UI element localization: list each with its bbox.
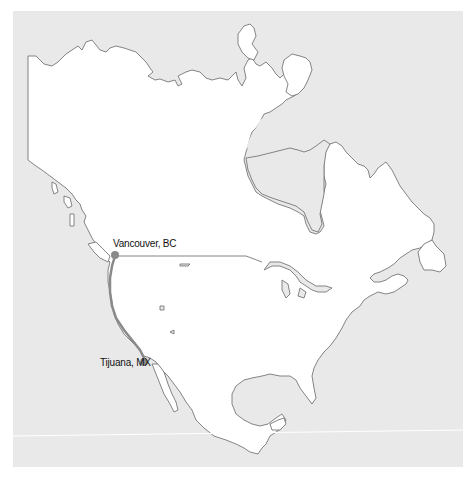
baffin-island xyxy=(282,54,312,96)
yucatan xyxy=(270,418,286,430)
marker-vancouver[interactable] xyxy=(111,251,119,259)
continent-landmass xyxy=(28,40,434,454)
arctic-island xyxy=(238,24,258,60)
label-vancouver: Vancouver, BC xyxy=(113,238,176,249)
label-tijuana: Tijuana, MX xyxy=(100,357,151,368)
north-america-map xyxy=(0,0,475,478)
